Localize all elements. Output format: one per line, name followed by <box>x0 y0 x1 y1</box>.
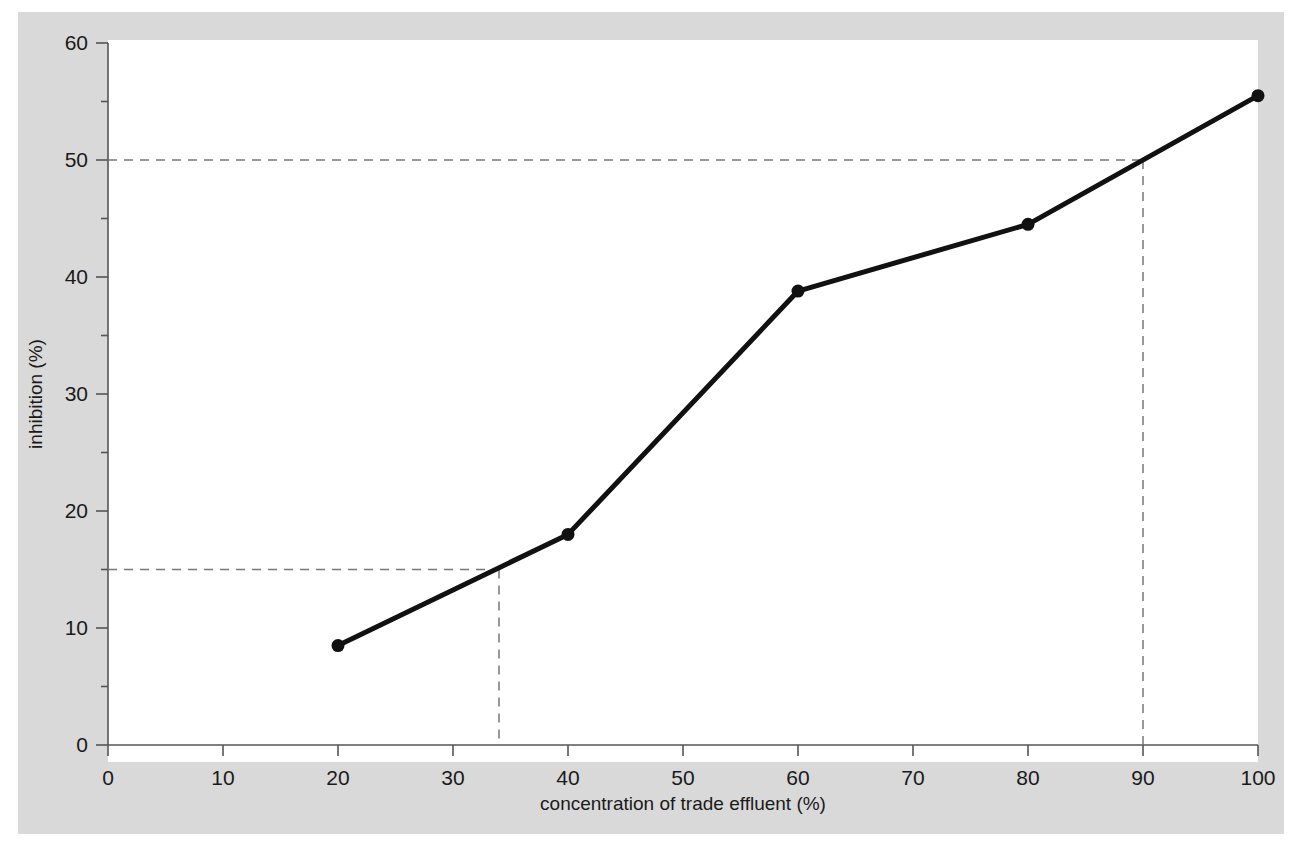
x-tick-label: 50 <box>671 766 694 789</box>
y-tick-label: 40 <box>65 265 88 288</box>
x-tick-label: 70 <box>901 766 924 789</box>
x-tick-label: 100 <box>1240 766 1275 789</box>
x-tick-label: 60 <box>786 766 809 789</box>
y-tick-label: 20 <box>65 499 88 522</box>
x-tick-label: 20 <box>326 766 349 789</box>
y-tick-label: 60 <box>65 31 88 54</box>
data-point-marker <box>792 285 805 298</box>
y-axis-tick-labels: 0102030405060 <box>65 31 88 756</box>
x-tick-label: 40 <box>556 766 579 789</box>
y-tick-label: 30 <box>65 382 88 405</box>
line-chart: 0102030405060 0102030405060708090100 con… <box>0 0 1302 850</box>
y-axis-title: inhibition (%) <box>25 339 46 449</box>
x-tick-label: 10 <box>211 766 234 789</box>
y-tick-label: 50 <box>65 148 88 171</box>
data-point-marker <box>1022 218 1035 231</box>
x-tick-label: 90 <box>1131 766 1154 789</box>
y-tick-label: 0 <box>76 733 88 756</box>
series-line-inhibition <box>338 96 1258 646</box>
x-axis-ticks <box>108 745 1258 756</box>
data-point-marker <box>1252 89 1265 102</box>
x-tick-label: 80 <box>1016 766 1039 789</box>
axes <box>108 43 1258 745</box>
figure-root: 0102030405060 0102030405060708090100 con… <box>0 0 1302 850</box>
x-axis-title: concentration of trade effluent (%) <box>540 793 826 814</box>
data-point-marker <box>332 639 345 652</box>
series-markers <box>332 89 1265 652</box>
y-axis-ticks <box>96 43 108 745</box>
guide-lines <box>108 160 1143 745</box>
data-point-marker <box>562 528 575 541</box>
y-tick-label: 10 <box>65 616 88 639</box>
x-axis-tick-labels: 0102030405060708090100 <box>102 766 1275 789</box>
x-tick-label: 30 <box>441 766 464 789</box>
x-tick-label: 0 <box>102 766 114 789</box>
